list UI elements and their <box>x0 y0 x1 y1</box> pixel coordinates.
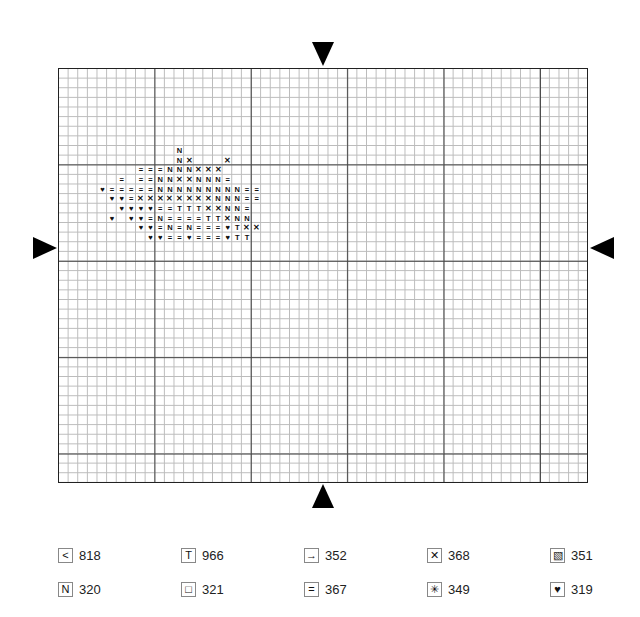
stitch-cell: ♥ <box>136 223 146 233</box>
stitch-cell: T <box>213 214 223 224</box>
stitch-cell: ✕ <box>184 194 194 204</box>
stitch-cell: = <box>175 214 185 224</box>
stitch-cell: = <box>155 223 165 233</box>
stitch-cell: ✕ <box>175 194 185 204</box>
cross-symbol-icon: ✕ <box>427 548 442 563</box>
stitch-cell: T <box>194 204 204 214</box>
stitch-cell: ♥ <box>117 204 127 214</box>
stitch-cell: T <box>233 233 243 243</box>
stitch-cell: = <box>213 233 223 243</box>
legend-item: ✳349 <box>427 582 550 597</box>
legend-item: =367 <box>304 582 427 597</box>
stitch-cell: ✕ <box>242 223 252 233</box>
legend-row-2: N320 □321 =367 ✳349 ♥319 <box>58 572 598 606</box>
stitch-cell: = <box>146 165 156 175</box>
center-marker-left <box>33 237 57 259</box>
stitch-cell: = <box>117 185 127 195</box>
stitch-cell: = <box>117 175 127 185</box>
floss-code: 352 <box>325 548 347 563</box>
less-than-symbol-icon: < <box>58 548 73 563</box>
stitch-cell: N <box>223 185 233 195</box>
stitch-cell: = <box>242 185 252 195</box>
stitch-cell: ♥ <box>184 233 194 243</box>
stitch-cell: N <box>165 223 175 233</box>
t-symbol-icon: T <box>181 548 196 563</box>
stitch-cell: = <box>223 175 233 185</box>
stitch-cell: ♥ <box>107 194 117 204</box>
stitch-cell: = <box>242 204 252 214</box>
stitch-cell: ♥ <box>117 194 127 204</box>
floss-code: 368 <box>448 548 470 563</box>
symbol-key: <818 T966 →352 ✕368 ▧351 N320 □321 =367 … <box>58 538 598 606</box>
legend-item: ▧351 <box>550 548 593 563</box>
stitch-cell: N <box>233 204 243 214</box>
stitch-cell: T <box>175 204 185 214</box>
stitch-cell: N <box>204 175 214 185</box>
stitch-cell: = <box>146 175 156 185</box>
stitch-cell: = <box>155 204 165 214</box>
floss-code: 319 <box>571 582 593 597</box>
stitch-cell: ✕ <box>194 194 204 204</box>
stitch-cell: ✕ <box>223 156 233 166</box>
legend-item: <818 <box>58 548 181 563</box>
stitch-cell: = <box>252 194 262 204</box>
stitch-cell: = <box>204 233 214 243</box>
stitch-cell: = <box>136 185 146 195</box>
stitch-cell: = <box>175 233 185 243</box>
stitch-cell: = <box>194 214 204 224</box>
stitch-cell: N <box>165 175 175 185</box>
legend-item: ♥319 <box>550 582 593 597</box>
stitch-cell: N <box>233 185 243 195</box>
stitch-cell: = <box>184 214 194 224</box>
stitch-chart-grid: NN✕✕===NNN✕✕✕===NN✕✕NNN=♥=====NNNNNNNNN=… <box>58 68 588 483</box>
stitch-cell: N <box>184 185 194 195</box>
stitch-cell: = <box>194 223 204 233</box>
stitch-cell: N <box>165 165 175 175</box>
stitch-cell: N <box>204 185 214 195</box>
stitch-cell: N <box>242 214 252 224</box>
stitch-cell: N <box>213 194 223 204</box>
stitch-cell: ♥ <box>107 214 117 224</box>
stitch-cell: = <box>175 223 185 233</box>
heart-symbol-icon: ♥ <box>550 582 565 597</box>
legend-row-1: <818 T966 →352 ✕368 ▧351 <box>58 538 598 572</box>
stitch-cell: ✕ <box>204 165 214 175</box>
stitch-cell: ✕ <box>204 204 214 214</box>
stitch-cell: = <box>146 214 156 224</box>
stitch-cell: N <box>175 146 185 156</box>
floss-code: 818 <box>79 548 101 563</box>
stitch-cell: = <box>126 185 136 195</box>
stitch-cell: ✕ <box>175 175 185 185</box>
stitch-cell: = <box>126 194 136 204</box>
stitch-cell: ✕ <box>155 194 165 204</box>
stitch-cell: = <box>136 165 146 175</box>
stitch-cell: = <box>165 233 175 243</box>
stitch-cell: ♥ <box>126 204 136 214</box>
stitch-cell: N <box>213 175 223 185</box>
stitch-cell: T <box>242 233 252 243</box>
floss-code: 321 <box>202 582 224 597</box>
stitch-cell: ✕ <box>184 175 194 185</box>
stitch-cell: N <box>184 165 194 175</box>
stitch-cell: ♥ <box>126 214 136 224</box>
stitch-cell: = <box>165 204 175 214</box>
stitch-cell: = <box>204 223 214 233</box>
hatch-symbol-icon: ▧ <box>550 548 565 563</box>
legend-item: T966 <box>181 548 304 563</box>
stitch-cell: = <box>136 175 146 185</box>
equals-symbol-icon: = <box>304 582 319 597</box>
stitch-cell: ✕ <box>136 194 146 204</box>
stitch-cell: ♥ <box>136 214 146 224</box>
stitch-cell: N <box>155 214 165 224</box>
stitch-symbols: NN✕✕===NNN✕✕✕===NN✕✕NNN=♥=====NNNNNNNNN=… <box>59 69 587 482</box>
stitch-cell: = <box>155 165 165 175</box>
star-symbol-icon: ✳ <box>427 582 442 597</box>
stitch-cell: ♥ <box>98 185 108 195</box>
arrow-symbol-icon: → <box>304 548 319 563</box>
center-marker-right <box>590 237 614 259</box>
floss-code: 367 <box>325 582 347 597</box>
stitch-cell: ✕ <box>213 165 223 175</box>
stitch-cell: N <box>223 204 233 214</box>
stitch-cell: N <box>155 185 165 195</box>
stitch-cell: ✕ <box>223 214 233 224</box>
